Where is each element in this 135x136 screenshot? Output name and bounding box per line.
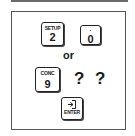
key-legend: ENTER	[62, 109, 82, 115]
conc-9-key[interactable]: CONC 9	[35, 67, 60, 92]
enter-key[interactable]: ENTER	[61, 97, 83, 120]
top-divider	[11, 0, 128, 2]
decimal-0-key[interactable]: · 0	[80, 25, 101, 45]
key-number: 0	[81, 33, 100, 45]
setup-2-key[interactable]: SETUP 2	[41, 22, 64, 46]
key-number: 9	[36, 78, 59, 90]
or-separator: or	[63, 49, 74, 61]
value-placeholder: ? ?	[74, 69, 109, 89]
key-legend: CONC	[36, 70, 59, 76]
key-number: 2	[42, 31, 63, 43]
enter-arrow-icon	[67, 100, 77, 109]
